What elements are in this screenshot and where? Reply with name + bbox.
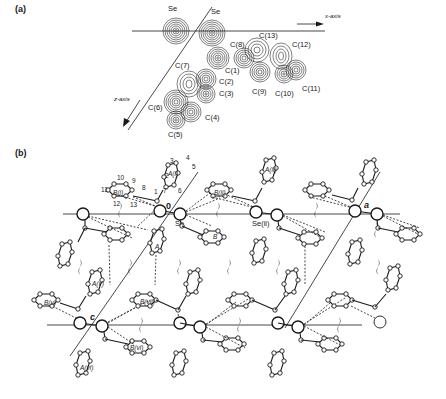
ring-label-b-vii: B(vii) <box>140 298 155 306</box>
screw-axis-icon <box>79 259 82 275</box>
x-axis-arrow-icon <box>297 22 324 27</box>
molecule-left <box>56 208 148 285</box>
atom-num-7: 7 <box>163 187 167 194</box>
ring-label-b: B <box>213 233 218 240</box>
origin-label: 0 <box>166 201 171 211</box>
atom-label-c3: C(3) <box>219 89 234 98</box>
ring-label-a: A <box>154 243 159 250</box>
atom-label-c11: C(11) <box>302 84 321 93</box>
atom-label-c12: C(12) <box>292 40 311 49</box>
molecule-far-right <box>326 264 402 328</box>
atom-num-1: 1 <box>154 188 158 195</box>
crystal-structure-figure: (a) x-axis z-axis <box>0 0 446 399</box>
atom-label-c2: C(2) <box>219 77 234 86</box>
axis-c-label: c <box>90 312 95 322</box>
atom-label-c6: C(6) <box>148 103 163 112</box>
panel-a-label: (a) <box>15 4 26 14</box>
ring-label-b-ii: B(ii) <box>214 189 226 197</box>
molecule-lower-right <box>226 268 345 377</box>
molecule-central-a-b <box>148 220 226 285</box>
atom-num-4: 4 <box>186 154 190 161</box>
atom-num-12: 12 <box>113 200 121 207</box>
screw-axis-icon <box>129 259 132 275</box>
se-ii-label: Se(ii) <box>252 219 270 228</box>
atom-num-13: 13 <box>130 201 138 208</box>
atom-num-11: 11 <box>101 186 108 193</box>
molecule-axis-a <box>303 158 422 266</box>
atom-label-c10: C(10) <box>275 89 294 98</box>
z-axis-arrow-icon <box>123 100 140 127</box>
ring-label-a-v: A(v) <box>91 280 104 288</box>
screw-axis-icon <box>178 259 181 275</box>
atom-label-c8: C(8) <box>230 40 245 49</box>
atom-num-5: 5 <box>192 163 196 170</box>
panel-b-label: (b) <box>15 148 27 158</box>
atom-label-c1: C(1) <box>225 66 240 75</box>
ring-label-a-i: A(i) <box>167 170 178 178</box>
ring-label-a-ii: A(ii) <box>264 166 277 174</box>
atom-label-c13: C(13) <box>259 31 278 40</box>
atom-num-2: 2 <box>165 172 169 179</box>
ring-label-b-i: B(i) <box>113 189 123 197</box>
atom-num-9: 9 <box>132 177 136 184</box>
atom-num-3: 3 <box>170 157 174 164</box>
z-axis-label: z-axis <box>113 96 130 102</box>
screw-axis-icon <box>277 259 280 275</box>
panel-b: (b) 0 a c <box>15 148 422 377</box>
atom-num-10: 10 <box>117 174 125 181</box>
atom-label-se-1: Se <box>168 4 177 13</box>
atom-label-c5: C(5) <box>168 130 183 139</box>
atom-label-c4: C(4) <box>205 113 220 122</box>
atom-label-se-2: Se <box>211 7 220 16</box>
screw-axis-icon <box>315 202 318 218</box>
screw-axis-icon <box>217 202 220 218</box>
ring-label-b-vi: B(vi) <box>130 344 143 352</box>
atom-label-c7: C(7) <box>175 61 190 70</box>
molecule-b-vii <box>130 268 250 377</box>
atom-label-c9: C(9) <box>252 87 267 96</box>
ring-label-a-vi: A(vi) <box>79 364 93 372</box>
diagonal-reference-line <box>128 7 212 130</box>
x-axis-label: x-axis <box>324 13 341 19</box>
axis-a-label: a <box>364 200 369 210</box>
ring-label-b-v: B(v) <box>44 299 56 307</box>
screw-axis-icon <box>377 259 380 275</box>
atom-num-6: 6 <box>178 187 182 194</box>
screw-axis-icon <box>228 259 231 275</box>
screw-axis-symbols <box>79 202 380 333</box>
atom-num-8: 8 <box>142 184 146 191</box>
panel-a: (a) x-axis z-axis <box>15 4 341 139</box>
